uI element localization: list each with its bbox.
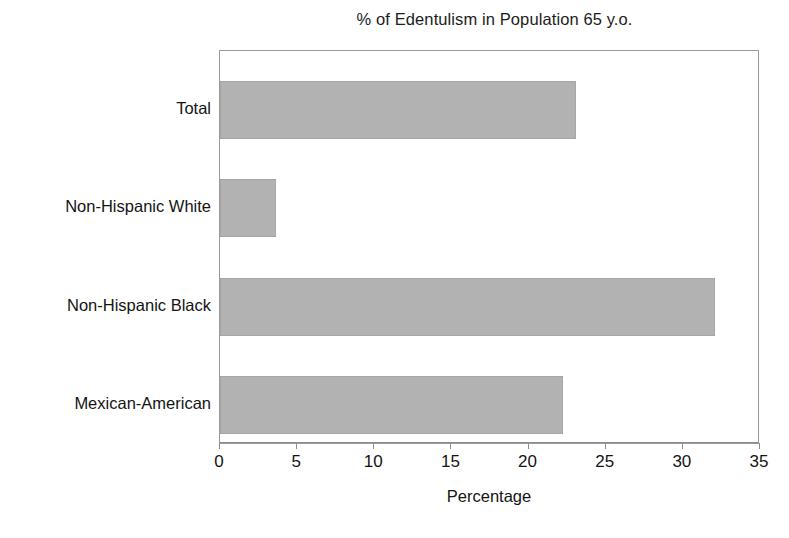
chart-page: % of Edentulism in Population 65 y.o. To… [0, 0, 789, 538]
chart-title: % of Edentulism in Population 65 y.o. [0, 10, 789, 29]
x-tick-30 [682, 443, 683, 449]
x-tick-label-5: 5 [266, 452, 326, 472]
category-label-non-hispanic-black: Non-Hispanic Black [0, 296, 211, 315]
x-tick-15 [450, 443, 451, 449]
bar-non-hispanic-white [220, 179, 276, 237]
chart-title-text: % of Edentulism in Population 65 y.o. [357, 10, 633, 28]
x-tick-25 [605, 443, 606, 449]
bar-total [220, 81, 576, 139]
x-tick-label-20: 20 [498, 452, 558, 472]
x-tick-label-25: 25 [575, 452, 635, 472]
category-label-mexican-american: Mexican-American [0, 394, 211, 413]
x-axis-line [219, 443, 759, 444]
x-tick-label-0: 0 [189, 452, 249, 472]
category-label-non-hispanic-white: Non-Hispanic White [0, 197, 211, 216]
bar-mexican-american [220, 376, 563, 434]
x-tick-label-35: 35 [729, 452, 789, 472]
x-tick-10 [373, 443, 374, 449]
category-label-total: Total [0, 99, 211, 118]
x-tick-label-10: 10 [343, 452, 403, 472]
scan-artifact-text [60, 529, 740, 535]
x-tick-5 [296, 443, 297, 449]
x-tick-20 [528, 443, 529, 449]
bar-non-hispanic-black [220, 278, 715, 336]
x-tick-label-15: 15 [420, 452, 480, 472]
x-tick-0 [219, 443, 220, 449]
x-axis-title: Percentage [219, 487, 759, 506]
x-tick-label-30: 30 [652, 452, 712, 472]
x-tick-35 [759, 443, 760, 449]
